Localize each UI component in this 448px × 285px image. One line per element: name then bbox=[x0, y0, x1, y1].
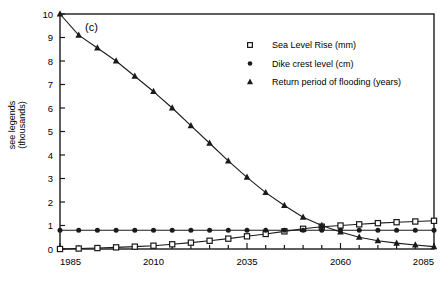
marker-filled-circle bbox=[394, 228, 399, 233]
marker-filled-triangle bbox=[169, 104, 176, 110]
y-tick-label: 9 bbox=[48, 32, 53, 43]
marker-filled-circle bbox=[375, 228, 380, 233]
legend-item: Return period of flooding (years) bbox=[247, 77, 401, 87]
marker-open-square bbox=[338, 223, 343, 228]
marker-filled-circle bbox=[319, 228, 324, 233]
series-line bbox=[60, 14, 434, 247]
marker-open-square bbox=[95, 245, 100, 250]
marker-open-square bbox=[357, 222, 362, 227]
marker-open-square bbox=[151, 243, 156, 248]
marker-open-square bbox=[431, 218, 436, 223]
y-tick-label: 10 bbox=[42, 9, 53, 20]
y-axis-title-line2: (thousands) bbox=[17, 101, 27, 149]
marker-filled-circle bbox=[188, 228, 193, 233]
x-tick-label: 2035 bbox=[236, 256, 257, 267]
marker-filled-triangle bbox=[247, 79, 253, 85]
marker-filled-triangle bbox=[262, 189, 269, 195]
marker-open-square bbox=[188, 240, 193, 245]
x-tick-label: 1985 bbox=[60, 256, 81, 267]
marker-filled-circle bbox=[76, 228, 81, 233]
y-tick-label: 7 bbox=[48, 79, 53, 90]
y-tick-label: 0 bbox=[48, 244, 53, 255]
marker-open-square bbox=[170, 242, 175, 247]
marker-filled-triangle bbox=[94, 44, 101, 50]
marker-filled-circle bbox=[151, 228, 156, 233]
y-tick-label: 1 bbox=[48, 220, 53, 231]
y-tick-label: 6 bbox=[48, 103, 53, 114]
marker-open-square bbox=[207, 238, 212, 243]
marker-open-square bbox=[413, 219, 418, 224]
marker-open-square bbox=[375, 221, 380, 226]
legend-item: Dike crest level (cm) bbox=[248, 59, 354, 69]
chart-legend: Sea Level Rise (mm)Dike crest level (cm)… bbox=[247, 40, 401, 87]
marker-open-square bbox=[114, 245, 119, 250]
marker-filled-triangle bbox=[132, 73, 139, 79]
marker-filled-circle bbox=[170, 228, 175, 233]
y-tick-label: 4 bbox=[48, 150, 53, 161]
x-tick-label: 2060 bbox=[330, 256, 351, 267]
series-filled-circle bbox=[58, 228, 437, 233]
legend-item-label: Return period of flooding (years) bbox=[272, 77, 401, 87]
marker-open-square bbox=[394, 220, 399, 225]
marker-filled-circle bbox=[301, 228, 306, 233]
marker-filled-circle bbox=[207, 228, 212, 233]
axis-frame bbox=[60, 14, 434, 249]
y-tick-label: 2 bbox=[48, 197, 53, 208]
marker-filled-circle bbox=[282, 228, 287, 233]
marker-filled-circle bbox=[226, 228, 231, 233]
marker-filled-triangle bbox=[300, 214, 307, 220]
marker-open-square bbox=[244, 234, 249, 239]
marker-filled-circle bbox=[432, 228, 437, 233]
marker-filled-circle bbox=[58, 228, 63, 233]
y-axis-title: see legends (thousands) bbox=[2, 75, 32, 175]
legend-item-label: Sea Level Rise (mm) bbox=[272, 40, 356, 50]
series-filled-triangle bbox=[57, 10, 438, 249]
marker-open-square bbox=[226, 236, 231, 241]
y-axis-title-line1: see legends bbox=[7, 101, 17, 150]
y-tick-label: 8 bbox=[48, 56, 53, 67]
marker-filled-circle bbox=[248, 61, 253, 66]
marker-filled-circle bbox=[132, 228, 137, 233]
marker-open-square bbox=[132, 244, 137, 249]
y-tick-label: 5 bbox=[48, 126, 53, 137]
figure-panel-c: see legends (thousands) 012345678910 198… bbox=[0, 0, 448, 285]
marker-open-square bbox=[248, 43, 253, 48]
x-tick-label: 2010 bbox=[143, 256, 164, 267]
marker-filled-triangle bbox=[150, 88, 157, 94]
data-series-layer bbox=[57, 10, 438, 251]
marker-filled-triangle bbox=[244, 174, 251, 180]
legend-item: Sea Level Rise (mm) bbox=[248, 40, 356, 50]
marker-filled-circle bbox=[95, 228, 100, 233]
marker-filled-circle bbox=[413, 228, 418, 233]
marker-open-square bbox=[76, 246, 81, 251]
marker-filled-triangle bbox=[113, 57, 120, 63]
legend-item-label: Dike crest level (cm) bbox=[272, 59, 354, 69]
panel-label: (c) bbox=[85, 21, 98, 33]
marker-filled-circle bbox=[263, 228, 268, 233]
y-axis-ticks: 012345678910 bbox=[42, 9, 65, 255]
marker-filled-triangle bbox=[281, 202, 288, 208]
x-tick-label: 2085 bbox=[413, 256, 434, 267]
y-tick-label: 3 bbox=[48, 173, 53, 184]
marker-filled-circle bbox=[114, 228, 119, 233]
marker-open-square bbox=[57, 246, 62, 251]
chart-plot-area: 012345678910 19852010203520602085 Sea Le… bbox=[0, 0, 448, 285]
marker-filled-circle bbox=[245, 228, 250, 233]
marker-filled-circle bbox=[357, 228, 362, 233]
